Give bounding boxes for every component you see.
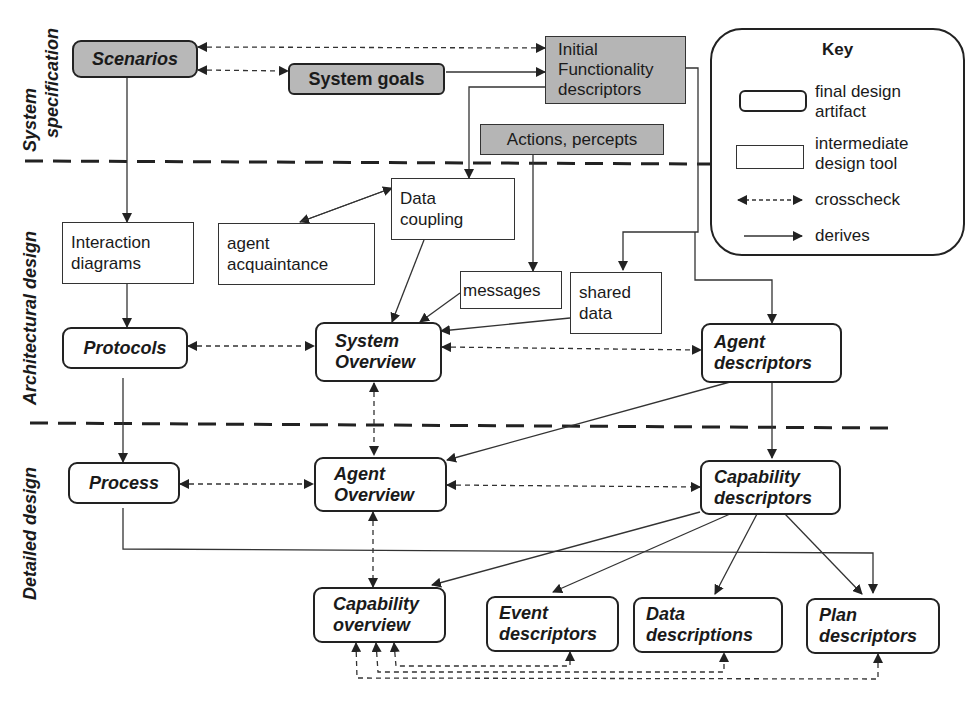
key-label-line: artifact	[815, 102, 901, 122]
node-label: Protocols	[83, 338, 166, 359]
node-label: agent	[227, 233, 374, 254]
node-label: Agent	[334, 464, 445, 485]
protocols-node[interactable]: Protocols	[62, 327, 188, 369]
node-label: Capability	[714, 467, 839, 488]
initial-functionality-descriptors-node[interactable]: Initial Functionality descriptors	[545, 36, 686, 104]
key-label-line: design tool	[815, 154, 909, 174]
node-label: messages	[463, 280, 561, 301]
node-label: Overview	[335, 352, 440, 373]
messages-node[interactable]: messages	[460, 271, 562, 309]
node-label: Actions, percepts	[507, 129, 637, 150]
data-descriptions-node[interactable]: Data descriptions	[633, 597, 783, 653]
node-label: descriptors	[714, 353, 840, 374]
crosscheck-arrow-icon	[736, 193, 816, 207]
node-label: Agent	[714, 332, 840, 353]
phase-label-system-specification: System	[20, 88, 41, 152]
node-label: Data	[400, 188, 514, 209]
agent-overview-node[interactable]: Agent Overview	[314, 457, 447, 512]
node-label: descriptors	[499, 624, 617, 645]
node-label: System goals	[308, 69, 424, 90]
node-label: overview	[333, 615, 444, 636]
node-label: descriptors	[558, 80, 685, 100]
key-label-line: intermediate	[815, 134, 909, 154]
phase-label-line: System	[20, 88, 41, 152]
derives-arrow-icon	[742, 229, 822, 243]
node-label: Initial	[558, 40, 685, 60]
phase-label-line: specification	[42, 28, 63, 138]
node-label: data	[579, 303, 661, 324]
node-label: Scenarios	[92, 49, 178, 70]
key-label-crosscheck: crosscheck	[815, 190, 900, 210]
node-label: Interaction	[71, 232, 193, 253]
node-label: Overview	[334, 485, 445, 506]
interaction-diagrams-node[interactable]: Interaction diagrams	[62, 222, 194, 284]
node-label: descriptors	[819, 626, 938, 647]
shared-data-node[interactable]: shared data	[570, 272, 662, 334]
key-title: Key	[712, 40, 963, 60]
phase-label-architectural-design: Architectural design	[20, 231, 41, 405]
scenarios-node[interactable]: Scenarios	[72, 40, 198, 78]
key-label-intermediate: intermediate design tool	[815, 134, 909, 174]
node-label: descriptions	[646, 625, 781, 646]
key-label-final: final design artifact	[815, 82, 901, 122]
final-artifact-swatch	[739, 90, 807, 112]
node-label: Data	[646, 604, 781, 625]
node-label: Process	[89, 473, 159, 494]
capability-overview-node[interactable]: Capability overview	[313, 587, 446, 643]
system-goals-node[interactable]: System goals	[288, 63, 445, 95]
data-coupling-node[interactable]: Data coupling	[391, 178, 515, 240]
system-overview-node[interactable]: System Overview	[315, 322, 442, 382]
node-label: Plan	[819, 605, 938, 626]
node-label: System	[335, 331, 440, 352]
agent-descriptors-node[interactable]: Agent descriptors	[701, 323, 842, 383]
node-label: Functionality	[558, 60, 685, 80]
key-label-line: final design	[815, 82, 901, 102]
process-node[interactable]: Process	[68, 462, 180, 504]
node-label: diagrams	[71, 253, 193, 274]
node-label: descriptors	[714, 488, 839, 509]
actions-percepts-node[interactable]: Actions, percepts	[480, 124, 664, 155]
capability-descriptors-node[interactable]: Capability descriptors	[700, 460, 841, 515]
node-label: coupling	[400, 209, 514, 230]
phase-label-detailed-design: Detailed design	[20, 467, 41, 600]
key-label-derives: derives	[815, 226, 870, 246]
key-legend: Key final design artifact intermediate d…	[710, 28, 965, 256]
node-label: acquaintance	[227, 254, 374, 275]
node-label: Capability	[333, 594, 444, 615]
event-descriptors-node[interactable]: Event descriptors	[486, 596, 619, 652]
plan-descriptors-node[interactable]: Plan descriptors	[806, 598, 940, 654]
node-label: shared	[579, 282, 661, 303]
phase-label-system-specification-2: specification	[42, 28, 63, 138]
intermediate-tool-swatch	[736, 145, 804, 169]
node-label: Event	[499, 603, 617, 624]
agent-acquaintance-node[interactable]: agent acquaintance	[218, 223, 375, 285]
